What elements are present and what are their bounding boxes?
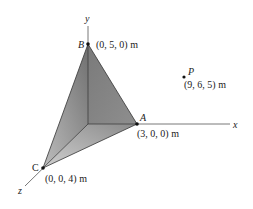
point-P-coord: (9, 6, 5) m [184, 79, 226, 91]
point-B-dot [86, 42, 90, 46]
point-A-coord: (3, 0, 0) m [137, 128, 179, 140]
x-axis-label: x [232, 119, 238, 130]
point-C-label: C [32, 162, 39, 173]
point-A-label: A [139, 112, 147, 123]
y-axis-label: y [84, 13, 90, 24]
point-C-dot [41, 166, 45, 170]
z-axis-label: z [17, 185, 22, 196]
point-B-label: B [78, 39, 84, 50]
point-B-coord: (0, 5, 0) m [96, 39, 138, 51]
point-C-coord: (0, 0, 4) m [45, 173, 87, 185]
point-P-label: P [187, 66, 194, 77]
tetrahedron-diagram: y x z B (0, 5, 0) m A (3, 0, 0) m C (0, … [0, 0, 253, 209]
point-A-dot [135, 122, 139, 126]
